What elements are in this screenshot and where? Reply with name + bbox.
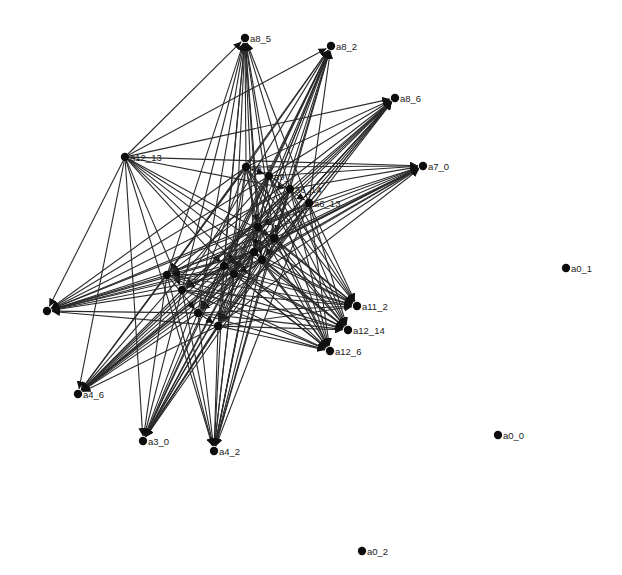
edge-c12-to-a8_2 [200,51,329,310]
node-circle[interactable] [139,437,147,445]
node-circle[interactable] [286,185,294,193]
node-circle[interactable] [270,234,278,242]
node-label: a8_5 [250,33,271,44]
node-circle[interactable] [419,162,427,170]
node-label: a8_6 [400,93,421,104]
node-circle[interactable] [344,326,352,334]
node-c3[interactable]: a6_14 [286,184,322,195]
node-circle[interactable] [241,34,249,42]
node-a4_6[interactable]: a4_6 [74,389,104,400]
node-circle[interactable] [494,431,502,439]
node-circle[interactable] [327,42,335,50]
node-label: a12_13 [130,152,162,163]
node-c8[interactable] [220,262,228,270]
node-a8_6[interactable]: a8_6 [391,93,421,104]
node-circle[interactable] [265,172,273,180]
node-label: a0_2 [367,546,388,557]
node-circle[interactable] [254,223,262,231]
node-circle[interactable] [562,264,570,272]
node-label: a9_ [274,171,291,182]
node-label: a6_6 [251,162,272,173]
node-label: a6_14 [295,184,321,195]
node-label: a4_2 [219,446,240,457]
node-a3_0[interactable]: a3_0 [139,436,169,447]
node-c10[interactable] [163,271,171,279]
network-graph: a8_5a8_2a8_6a7_0a12_13a6_6a9_a6_14a6_13a… [0,0,622,575]
node-a0_1[interactable]: a0_1 [562,263,592,274]
node-a0_2[interactable]: a0_2 [358,546,388,557]
node-label: a3_0 [148,436,169,447]
node-circle[interactable] [214,322,222,330]
node-circle[interactable] [250,248,258,256]
node-circle[interactable] [242,163,250,171]
node-circle[interactable] [305,199,313,207]
node-c13[interactable] [214,322,222,330]
node-c4[interactable] [254,223,262,231]
node-circle[interactable] [194,309,202,317]
node-circle[interactable] [358,547,366,555]
node-a0_0[interactable]: a0_0 [494,430,524,441]
node-circle[interactable] [210,447,218,455]
edge-c11-to-a4_6 [82,293,179,390]
node-circle[interactable] [43,307,51,315]
node-a12_6[interactable]: a12_6 [326,346,362,357]
edge-c1-to-a8_6 [250,100,390,165]
node-label: a7_0 [428,161,449,172]
node-c7[interactable] [258,256,266,264]
node-label: a12_14 [353,325,385,336]
node-left1[interactable] [43,307,51,315]
node-c9[interactable] [230,270,238,278]
node-circle[interactable] [353,302,361,310]
node-circle[interactable] [230,270,238,278]
node-circle[interactable] [220,262,228,270]
edge-layer [49,42,419,446]
node-label: a12_6 [335,346,361,357]
node-a6_13[interactable]: a6_13 [305,198,341,209]
edge-a12_13-to-a8_5 [128,42,241,154]
node-c2[interactable]: a9_ [265,171,291,182]
node-label: a6_13 [314,198,340,209]
node-a7_0[interactable]: a7_0 [419,161,449,172]
edge-c9-to-c10 [172,274,230,275]
node-circle[interactable] [178,286,186,294]
node-label: a8_2 [336,41,357,52]
node-circle[interactable] [121,153,129,161]
node-circle[interactable] [326,347,334,355]
node-circle[interactable] [258,256,266,264]
node-label: a0_1 [571,263,592,274]
edge-c5-to-a8_5 [246,43,274,234]
node-circle[interactable] [74,390,82,398]
node-a4_2[interactable]: a4_2 [210,446,240,457]
node-circle[interactable] [163,271,171,279]
node-label: a4_6 [83,389,104,400]
node-label: a0_0 [503,430,524,441]
node-c6[interactable] [250,248,258,256]
node-a8_5[interactable]: a8_5 [241,33,271,44]
edge-c12-to-a4_6 [82,315,194,391]
node-a11_2[interactable]: a11_2 [353,301,388,312]
node-c11[interactable] [178,286,186,294]
node-label: a11_2 [362,301,388,312]
node-c5[interactable] [270,234,278,242]
edge-c13-to-a12_6 [222,327,325,350]
edge-c1-to-a7_0 [250,166,418,167]
node-c1[interactable]: a6_6 [242,162,272,173]
node-circle[interactable] [391,94,399,102]
node-a12_14[interactable]: a12_14 [344,325,385,336]
node-a8_2[interactable]: a8_2 [327,41,357,52]
node-c12[interactable] [194,309,202,317]
